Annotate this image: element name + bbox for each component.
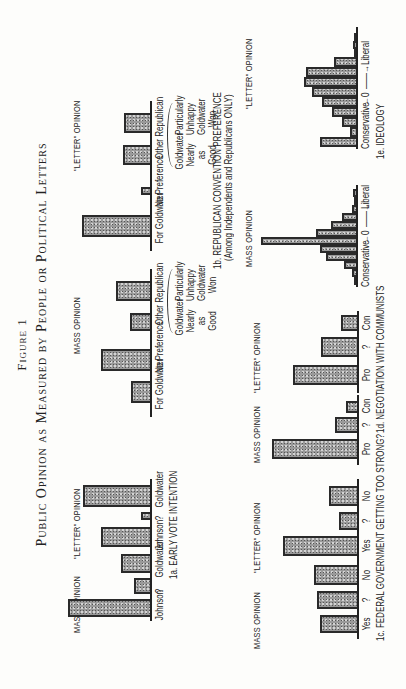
panel-1b-mass-baseline bbox=[150, 269, 152, 417]
bar bbox=[130, 313, 150, 331]
category-label: No Preference bbox=[154, 175, 165, 207]
category-label: Pro bbox=[361, 367, 372, 383]
panel-1c-letter-baseline bbox=[357, 479, 359, 559]
panel-1c-letter-chart bbox=[262, 482, 357, 562]
category-label: For Goldwater bbox=[154, 381, 165, 410]
category-label: For Goldwater bbox=[154, 215, 165, 244]
bar bbox=[293, 365, 357, 385]
bar bbox=[121, 554, 150, 573]
bar bbox=[283, 536, 357, 556]
panel-1a-letter-chart bbox=[58, 479, 150, 549]
figure-title: Public Opinion as Measured by People or … bbox=[34, 0, 50, 689]
panel-1b-letter-chart bbox=[58, 103, 150, 251]
panel-1b-caption: 1b. REPUBLICAN CONVENTION PREFERENCE bbox=[212, 92, 223, 269]
figure-title-block: Figure 1 Public Opinion as Measured by P… bbox=[14, 0, 50, 689]
panel-1d-letter-chart bbox=[262, 313, 357, 393]
bar bbox=[141, 512, 150, 520]
panel-1c-mass-chart bbox=[262, 565, 357, 655]
bar bbox=[82, 215, 150, 237]
bar bbox=[341, 315, 357, 331]
panel-1a-baseline bbox=[150, 479, 152, 621]
bar bbox=[131, 381, 150, 403]
panel-1a-caption: 1a. EARLY VOTE INTENTION bbox=[168, 471, 179, 579]
axis-arrow: ——→ bbox=[360, 65, 371, 89]
figure-number: Figure 1 bbox=[14, 0, 30, 689]
category-label: Pro bbox=[361, 441, 372, 457]
figure-page: Figure 1 Public Opinion as Measured by P… bbox=[0, 0, 406, 689]
panel-1e-caption: 1e. IDEOLOGY bbox=[375, 104, 386, 159]
category-label: Goldwater Nearly as Good bbox=[174, 307, 218, 336]
category-label: ? bbox=[361, 339, 372, 355]
panel-1c-letter-label: "LETTER" OPINION bbox=[252, 502, 262, 573]
brace bbox=[167, 103, 174, 167]
bar bbox=[346, 401, 357, 413]
category-label: Yes bbox=[361, 538, 372, 554]
bar bbox=[317, 591, 357, 609]
category-label: Con bbox=[361, 399, 372, 413]
group-label: Other Republican bbox=[154, 277, 165, 325]
category-label: No bbox=[361, 488, 372, 504]
group-label: Other Republican bbox=[154, 111, 165, 159]
category-label: ? bbox=[154, 586, 165, 596]
bar bbox=[123, 145, 150, 165]
bar bbox=[124, 113, 150, 133]
panel-1e-letter-axis-zero: 0 bbox=[360, 93, 371, 97]
panel-1e-mass-baseline bbox=[356, 185, 358, 287]
panel-1d-mass-chart bbox=[262, 395, 357, 465]
panel-1c-caption: 1c. FEDERAL GOVERNMENT GETTING TOO STRON… bbox=[375, 434, 386, 641]
panel-1e-mass-axis-zero: 0 bbox=[360, 231, 371, 235]
bar bbox=[83, 485, 150, 507]
panel-1e-mass-axis-right: Liberal bbox=[360, 185, 371, 209]
bar bbox=[101, 527, 150, 547]
brace bbox=[167, 269, 174, 333]
panel-1d-letter-baseline bbox=[357, 311, 359, 393]
category-label: No Preference bbox=[154, 341, 165, 373]
panel-1c-mass-label: MASS OPINION bbox=[252, 592, 262, 649]
axis-arrow: ← bbox=[360, 235, 371, 243]
category-label: Particularly Unhappy Goldwater Won bbox=[174, 269, 218, 301]
category-label: Yes bbox=[361, 617, 372, 631]
bar bbox=[314, 565, 357, 585]
category-label: Goldwater bbox=[154, 550, 165, 577]
category-label: Johnson bbox=[154, 526, 165, 550]
panel-1d-caption: 1d. NEGOTIATION WITH COMMUNISTS bbox=[375, 286, 386, 433]
panel-1a-mass-chart bbox=[58, 561, 150, 621]
panel-1e-letter-axis-left: Conservative bbox=[360, 102, 371, 149]
panel-1b-letter-baseline bbox=[150, 101, 152, 251]
panel-1e-letter-histogram bbox=[252, 31, 356, 147]
bar bbox=[321, 337, 357, 357]
panel-1e-letter-baseline bbox=[356, 27, 358, 149]
panel-1e-letter-axis-right: Liberal bbox=[360, 41, 371, 65]
category-label: ? bbox=[361, 514, 372, 528]
bar bbox=[272, 439, 357, 459]
category-label: ? bbox=[154, 514, 165, 522]
bar bbox=[335, 417, 357, 433]
bar bbox=[339, 512, 357, 530]
bar bbox=[68, 599, 150, 617]
category-label: Goldwater bbox=[154, 480, 165, 507]
panel-1c-mass-baseline bbox=[357, 559, 359, 639]
bar bbox=[134, 578, 150, 594]
bar bbox=[320, 615, 357, 633]
panel-1d-mass-label: MASS OPINION bbox=[252, 406, 262, 463]
panel-1e-mass-axis-left: Conservative bbox=[360, 240, 371, 287]
category-label: No bbox=[361, 567, 372, 583]
panel-1e-mass-histogram bbox=[252, 189, 356, 285]
axis-arrow: ← bbox=[360, 97, 371, 105]
panel-1d-mass-baseline bbox=[357, 395, 359, 465]
category-label: ? bbox=[361, 593, 372, 607]
bar bbox=[116, 281, 150, 301]
bar bbox=[101, 349, 150, 371]
panel-1d-letter-label: "LETTER" OPINION bbox=[252, 322, 262, 393]
panel-1b-caption2: (Among Independents and Republicans ONLY… bbox=[223, 94, 234, 261]
category-label: ? bbox=[361, 419, 372, 432]
category-label: Con bbox=[361, 315, 372, 331]
bar bbox=[329, 486, 357, 506]
category-label: Johnson bbox=[154, 598, 165, 620]
panel-1b-mass-chart bbox=[58, 269, 150, 417]
bar bbox=[141, 187, 150, 195]
